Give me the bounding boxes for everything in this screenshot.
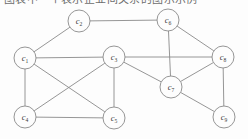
graph-node-c6[interactable]: c6: [157, 9, 179, 31]
enterprise-relation-graph: c1c2c3c4c5c6c7c8c9: [0, 0, 248, 139]
graph-edge-c8-c9: [223, 68, 224, 106]
graph-edge-c1-c3: [36, 57, 103, 58]
edge-layer: [25, 20, 224, 118]
graph-edge-c1-c2: [34, 27, 70, 52]
graph-edge-c3-c7: [124, 62, 162, 82]
graph-node-c4[interactable]: c4: [14, 106, 36, 128]
graph-node-c2[interactable]: c2: [68, 10, 90, 32]
graph-edge-c4-c5: [36, 117, 103, 118]
graph-node-c9[interactable]: c9: [213, 106, 235, 128]
graph-node-c5[interactable]: c5: [103, 107, 125, 129]
graph-edge-c3-c4: [34, 63, 105, 111]
graph-edge-c6-c7: [168, 31, 170, 76]
graph-node-c3[interactable]: c3: [103, 46, 125, 68]
graph-edge-c7-c8: [181, 63, 214, 82]
figure-canvas: 图表中一个表示企业间关系的图示示例 c1c2c3c4c5c6c7c8c9: [0, 0, 248, 139]
graph-node-c1[interactable]: c1: [14, 47, 36, 69]
graph-edge-c6-c8: [177, 26, 214, 51]
graph-edge-c1-c5: [34, 64, 105, 112]
graph-edge-c2-c6: [90, 20, 157, 21]
graph-edge-c7-c9: [181, 92, 215, 111]
graph-node-c7[interactable]: c7: [160, 76, 182, 98]
graph-node-c8[interactable]: c8: [212, 46, 234, 68]
